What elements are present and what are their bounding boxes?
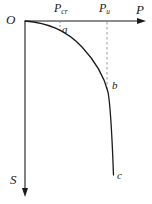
p-axis	[25, 18, 146, 24]
p-critical-label: Pcr	[54, 2, 68, 15]
ps-curve-path	[25, 21, 114, 175]
point-a-label: a	[62, 24, 68, 35]
origin-label: O	[6, 13, 15, 26]
s-axis-label: S	[10, 173, 17, 186]
s-axis	[22, 21, 28, 197]
ps-curve-figure: O P Pcr Pu a b c S	[0, 0, 152, 204]
p-ultimate-subscript: u	[106, 7, 110, 16]
p-ultimate-label: Pu	[99, 2, 110, 15]
figure-canvas	[0, 0, 152, 204]
s-axis-arrowhead	[22, 188, 28, 197]
point-c-label: c	[117, 170, 122, 181]
p-axis-label: P	[136, 3, 144, 16]
p-critical-subscript: cr	[61, 7, 67, 16]
p-axis-arrowhead	[137, 18, 146, 24]
point-b-label: b	[112, 80, 118, 91]
